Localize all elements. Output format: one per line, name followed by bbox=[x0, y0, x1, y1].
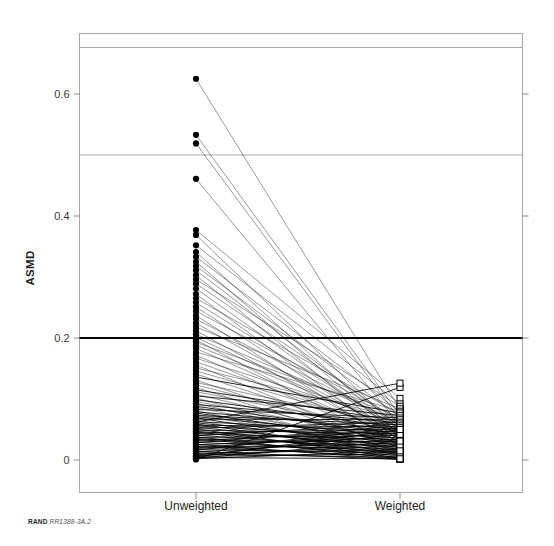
weighted-point bbox=[397, 427, 403, 433]
unweighted-point bbox=[193, 132, 199, 138]
slope-lines bbox=[196, 79, 400, 460]
y-tick-label-2: 0.4 bbox=[54, 210, 69, 222]
unweighted-point bbox=[193, 285, 199, 291]
slope-line bbox=[196, 419, 400, 420]
weighted-point bbox=[397, 438, 403, 444]
y-tick-label-3: 0.6 bbox=[54, 88, 69, 100]
rand-brand-text: RAND bbox=[28, 518, 48, 525]
weighted-point bbox=[397, 456, 403, 462]
unweighted-point bbox=[193, 232, 199, 238]
weighted-point bbox=[397, 448, 403, 454]
weighted-point bbox=[397, 380, 403, 386]
y-axis-ticks-right bbox=[523, 94, 529, 460]
unweighted-point bbox=[193, 242, 199, 248]
x-category-label-weighted: Weighted bbox=[375, 499, 425, 513]
unweighted-point bbox=[193, 419, 199, 425]
reference-lines bbox=[80, 155, 523, 338]
y-axis-tick-labels: 00.20.40.6 bbox=[54, 88, 69, 466]
y-axis-title: ASMD bbox=[24, 250, 36, 285]
plot-frame bbox=[80, 34, 523, 493]
x-category-label-unweighted: Unweighted bbox=[164, 499, 227, 513]
rand-document-id: RR1388-3A.2 bbox=[50, 518, 92, 525]
cropped-title-strip bbox=[0, 0, 554, 14]
y-tick-label-0: 0 bbox=[63, 454, 69, 466]
unweighted-point bbox=[193, 176, 199, 182]
slope-line bbox=[196, 279, 400, 406]
figure-container: 00.20.40.6 ASMD Unweighted Weighted RAND… bbox=[0, 0, 554, 546]
unweighted-point bbox=[193, 140, 199, 146]
unweighted-point bbox=[193, 456, 199, 462]
asmd-slope-chart: 00.20.40.6 ASMD Unweighted Weighted bbox=[0, 0, 554, 546]
weighted-markers bbox=[397, 380, 403, 462]
slope-line bbox=[196, 79, 400, 410]
y-tick-label-1: 0.2 bbox=[54, 332, 69, 344]
unweighted-markers bbox=[193, 76, 199, 463]
rand-credit-line: RANDRR1388-3A.2 bbox=[28, 518, 91, 525]
unweighted-point bbox=[193, 76, 199, 82]
y-axis-ticks bbox=[74, 94, 80, 460]
